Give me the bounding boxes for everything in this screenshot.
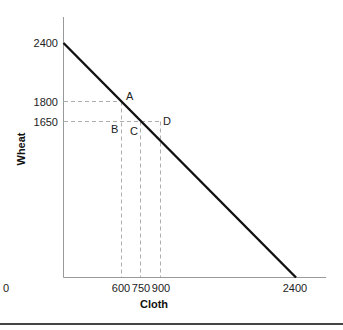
y-tick-2400: 2400 <box>34 37 58 49</box>
x-tick-2400: 2400 <box>283 282 307 294</box>
point-label-b: B <box>111 123 118 135</box>
x-tick-750: 750 <box>132 282 150 294</box>
x-tick-0: 0 <box>3 282 9 294</box>
y-tick-1800: 1800 <box>34 96 58 108</box>
ppf-chart: 2400 1800 1650 0 600 750 900 2400 Cloth … <box>0 0 343 330</box>
x-axis-label: Cloth <box>140 298 168 310</box>
ppf-line <box>64 43 297 278</box>
y-tick-1650: 1650 <box>34 116 58 128</box>
point-label-d: D <box>163 115 171 127</box>
x-tick-900: 900 <box>152 282 170 294</box>
bottom-divider <box>0 323 343 325</box>
point-label-a: A <box>126 90 134 102</box>
y-axis-label: Wheat <box>15 132 27 165</box>
x-tick-600: 600 <box>112 282 130 294</box>
point-label-c: C <box>130 125 138 137</box>
